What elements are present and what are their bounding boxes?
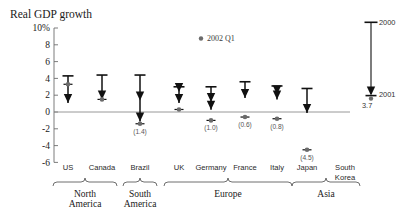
y-tick-label-10%: 10% (33, 23, 51, 33)
arrow-down-icon (241, 89, 249, 98)
region-label: Asia (317, 189, 335, 199)
key-dot-label: 3.7 (362, 101, 372, 110)
region-brace-southamerica: SouthAmerica (123, 178, 157, 209)
value-label-japan: (4.5) (300, 154, 314, 162)
arrow-down-icon (136, 91, 144, 100)
arrow-down-icon (136, 112, 144, 121)
y-tick-label-4: 4 (45, 74, 50, 84)
value-labels-group: (1.4)(1.0)(0.6)(0.8)(4.5) (133, 121, 314, 162)
region-label: North (74, 189, 96, 199)
region-label-line2: America (124, 199, 157, 209)
bar-japan (302, 88, 313, 152)
y-tick-label--2: -2 (42, 124, 50, 134)
y-tick-label-2: 2 (45, 90, 50, 100)
category-label-south-korea-line2: Korea (335, 173, 356, 182)
data-point-2002q1 (275, 116, 280, 121)
category-label-south-korea: South (335, 163, 355, 172)
bar-germany (206, 87, 217, 123)
category-label-canada: Canada (89, 163, 116, 172)
category-label-germany: Germany (195, 163, 226, 172)
annotation-label: 2002 Q1 (207, 34, 235, 43)
key-top-label: 2000 (379, 18, 395, 27)
value-label-brazil: (1.4) (133, 128, 147, 136)
region-brace-europe: Europe (164, 178, 292, 199)
arrow-down-icon (64, 94, 72, 103)
y-tick-label--4: -4 (42, 141, 50, 151)
annotation-dot (199, 36, 203, 40)
chart-canvas: Real GDP growth 10%86420-2-4-6 (1.4)(1.0… (0, 0, 414, 217)
bar-france (240, 82, 251, 120)
bars-group (63, 75, 313, 152)
data-point-2002q1 (243, 115, 248, 120)
category-label-japan: Japan (297, 163, 318, 172)
category-labels-group: USCanadaBrazilUKGermanyFranceItalyJapanS… (63, 163, 356, 182)
data-point-2002q1 (100, 97, 105, 102)
region-label: South (129, 189, 151, 199)
y-axis: 10%86420-2-4-6 (33, 23, 58, 167)
y-tick-label-6: 6 (45, 57, 50, 67)
real-gdp-growth-chart: Real GDP growth 10%86420-2-4-6 (1.4)(1.0… (0, 0, 414, 217)
key-bottom-label: 2001 (379, 90, 395, 99)
data-point-2002q1 (66, 82, 71, 87)
category-label-italy: Italy (270, 163, 284, 172)
region-brace-northamerica: NorthAmerica (53, 178, 117, 209)
data-point-2002q1 (209, 118, 214, 123)
bar-brazil (135, 75, 146, 126)
y-tick-label-8: 8 (45, 40, 50, 50)
region-braces-group: NorthAmericaSouthAmericaEuropeAsia (53, 178, 360, 209)
y-tick-label--6: -6 (42, 158, 50, 168)
arrow-down-icon (175, 94, 183, 103)
data-point-2002q1 (305, 148, 310, 153)
value-label-italy: (0.8) (270, 123, 284, 131)
annotation-2002q1: 2002 Q1 (199, 34, 235, 43)
region-label: Europe (214, 189, 241, 199)
region-label-line2: America (69, 199, 102, 209)
category-label-uk: UK (174, 163, 185, 172)
bar-us (63, 76, 74, 103)
y-tick-label-0: 0 (45, 107, 50, 117)
bar-uk (174, 83, 185, 112)
category-label-brazil: Brazil (131, 163, 150, 172)
category-label-us: US (63, 163, 74, 172)
category-label-france: France (233, 163, 257, 172)
data-point-2002q1 (138, 121, 143, 126)
value-label-germany: (1.0) (204, 124, 218, 132)
key-arrow-icon (367, 87, 375, 96)
value-label-france: (0.6) (238, 121, 252, 129)
bar-canada (97, 75, 108, 102)
bar-italy (272, 86, 283, 122)
chart-key: 2000 2001 3.7 (362, 18, 395, 110)
data-point-2002q1 (177, 107, 182, 112)
page-title: Real GDP growth (10, 8, 92, 21)
